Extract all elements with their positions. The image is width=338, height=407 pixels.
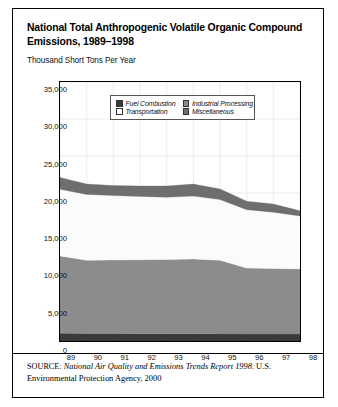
y-tick-20000: 20,000 [13, 196, 67, 205]
source-note: SOURCE: National Air Quality and Emissio… [27, 361, 309, 384]
legend-swatch-fuel-combustion [116, 100, 123, 107]
source-label: SOURCE: [27, 362, 62, 371]
y-tick-10000: 10,000 [13, 271, 67, 280]
legend-row: Transportation Miscellaneous [116, 108, 249, 115]
legend-swatch-transportation [116, 108, 123, 115]
chart-subtitle: Thousand Short Tons Per Year [27, 56, 136, 65]
plot-area [59, 81, 301, 342]
legend-swatch-industrial-processing [183, 100, 190, 107]
y-tick-35000: 35,000 [13, 85, 67, 94]
stacked-area-chart [60, 82, 300, 341]
legend-item-fuel-combustion: Fuel Combustion [116, 100, 183, 107]
legend-label-industrial-processing: Industrial Processing [192, 100, 253, 107]
y-tick-15000: 15,000 [13, 234, 67, 243]
y-tick-5000: 5,000 [13, 308, 67, 317]
source-divider [13, 353, 323, 354]
x-tick-98: 98 [309, 353, 317, 362]
legend-label-miscellaneous: Miscellaneous [192, 108, 234, 115]
y-tick-25000: 25,000 [13, 159, 67, 168]
legend-row: Fuel Combustion Industrial Processing [116, 100, 249, 107]
plot-frame [59, 81, 301, 342]
y-tick-30000: 30,000 [13, 122, 67, 131]
figure-panel: National Total Anthropogenic Volatile Or… [12, 8, 324, 398]
chart-legend: Fuel Combustion Industrial Processing Tr… [110, 95, 255, 120]
source-title: National Air Quality and Emissions Trend… [64, 362, 254, 371]
legend-label-fuel-combustion: Fuel Combustion [126, 100, 176, 107]
chart-title: National Total Anthropogenic Volatile Or… [27, 21, 312, 48]
legend-item-transportation: Transportation [116, 108, 183, 115]
legend-label-transportation: Transportation [126, 108, 168, 115]
legend-swatch-miscellaneous [183, 108, 190, 115]
legend-item-miscellaneous: Miscellaneous [183, 108, 250, 115]
legend-item-industrial-processing: Industrial Processing [183, 100, 250, 107]
